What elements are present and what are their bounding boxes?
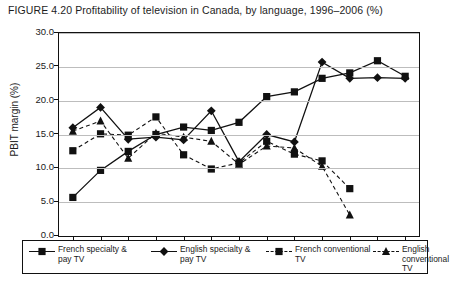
square-marker (318, 75, 325, 82)
triangle-marker (207, 137, 215, 145)
square-marker (69, 194, 76, 201)
plot-frame (58, 32, 420, 237)
legend-marker (373, 246, 399, 257)
square-marker (263, 93, 270, 100)
square-marker (69, 147, 76, 154)
series-line (73, 61, 405, 198)
legend-label: French conventional TV (295, 245, 370, 264)
gridline (59, 202, 419, 203)
legend-item[interactable]: French specialty & pay TV (29, 245, 149, 264)
y-axis-label: PBIT margin (%) (9, 60, 20, 180)
square-marker (346, 185, 353, 192)
square-marker (38, 248, 45, 255)
triangle-marker (382, 247, 390, 255)
square-marker (291, 88, 298, 95)
legend-label: French specialty & pay TV (58, 245, 127, 264)
square-marker (180, 123, 187, 130)
triangle-marker (290, 144, 298, 152)
square-marker (275, 248, 282, 255)
square-marker (235, 119, 242, 126)
chart-canvas: 0.05.010.015.020.025.030.0 PBIT margin (… (0, 22, 448, 234)
square-marker (374, 57, 381, 64)
legend-item[interactable]: English specialty & pay TV (151, 245, 266, 264)
square-marker (291, 151, 298, 158)
gridline (59, 101, 419, 102)
legend-item[interactable]: French conventional TV (266, 245, 371, 264)
series-line (73, 62, 405, 162)
triangle-marker (96, 117, 104, 125)
gridline (59, 67, 419, 68)
gridline (59, 135, 419, 136)
square-marker (180, 151, 187, 158)
gridline (59, 33, 419, 34)
diamond-marker (373, 73, 382, 82)
page-title: FIGURE 4.20 Profitability of television … (8, 4, 383, 16)
triangle-marker (346, 211, 354, 219)
diamond-marker (160, 247, 169, 256)
square-marker (152, 113, 159, 120)
y-tick-label: 30.0 (10, 26, 54, 38)
y-tick-label: 5.0 (10, 195, 54, 207)
legend-marker (266, 246, 292, 257)
square-marker (208, 127, 215, 134)
legend-marker (151, 246, 177, 257)
legend-label: English conventional TV (402, 245, 454, 274)
legend-marker (29, 246, 55, 257)
legend-label: English specialty & pay TV (180, 245, 250, 264)
legend-item[interactable]: English conventional TV (373, 245, 454, 274)
gridline (59, 168, 419, 169)
diamond-marker (318, 58, 327, 67)
legend: French specialty & pay TVEnglish special… (22, 240, 428, 274)
